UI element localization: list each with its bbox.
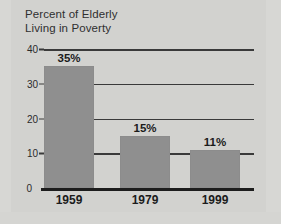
ytick-label-20: 20 — [27, 113, 38, 124]
bar-value-1959: 35% — [57, 52, 80, 64]
bar-1959: 35% 1959 — [44, 66, 94, 188]
bar-1999: 11% 1999 — [190, 150, 240, 188]
ytick-label-40: 40 — [27, 44, 38, 55]
ytick-stub-40 — [39, 49, 44, 51]
ytick-label-30: 30 — [27, 78, 38, 89]
category-label-1979: 1979 — [132, 193, 159, 207]
plot-area: 40 30 20 10 0 35% 1959 15% 1979 11% 1 — [44, 49, 254, 188]
bar-value-1999: 11% — [204, 136, 226, 148]
x-axis-line: 0 — [41, 188, 254, 191]
chart-figure: Percent of Elderly Living in Poverty 40 … — [0, 0, 281, 224]
bar-value-1979: 15% — [133, 122, 156, 134]
category-label-1999: 1999 — [202, 193, 229, 207]
figure-right-margin — [266, 0, 281, 224]
figure-left-margin — [0, 0, 11, 224]
bar-1979: 15% 1979 — [120, 136, 170, 188]
chart-title: Percent of Elderly Living in Poverty — [25, 8, 235, 35]
ytick-label-10: 10 — [27, 148, 38, 159]
category-label-1959: 1959 — [56, 193, 83, 207]
figure-bottom-margin — [0, 212, 281, 224]
gridline-40: 40 — [44, 49, 254, 51]
ytick-label-0: 0 — [26, 183, 32, 194]
